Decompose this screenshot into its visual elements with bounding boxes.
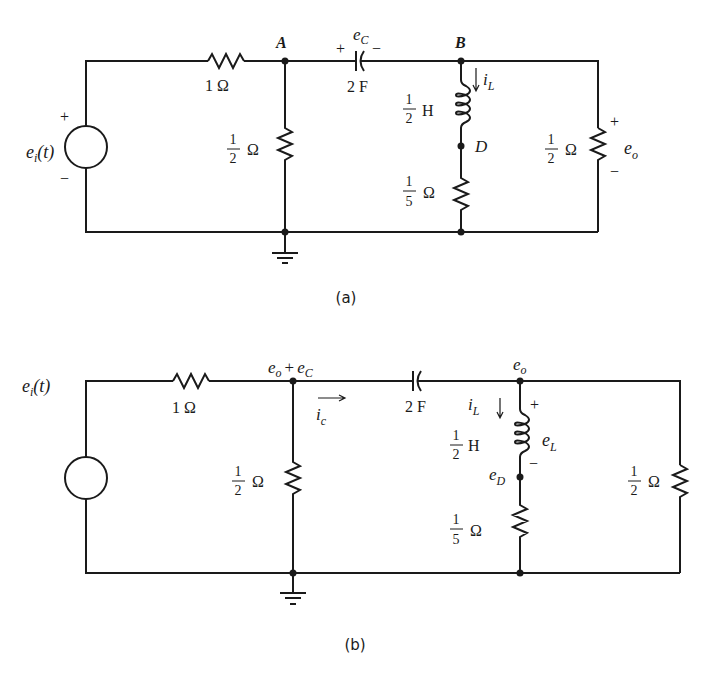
node-eo-dot-b (517, 378, 524, 385)
wire-a-left-top (86, 61, 208, 126)
cap-label-b: 2 F (405, 398, 426, 415)
wire-b-bottom (86, 499, 680, 573)
svg-text:1: 1 (406, 174, 413, 189)
resistor-half-ohm-right-b (673, 465, 687, 573)
svg-text:1: 1 (230, 132, 237, 147)
node-a-dot (282, 58, 289, 65)
svg-text:Ω: Ω (247, 141, 259, 158)
node-ed-dot-b (517, 474, 524, 481)
svg-text:H: H (422, 102, 434, 119)
svg-text:1: 1 (453, 428, 460, 443)
node-b-label: B (454, 34, 466, 51)
el-plus-b: + (530, 396, 539, 413)
svg-text:5: 5 (406, 194, 413, 209)
inductor-label-a: 1 2 H (403, 92, 434, 126)
eo-minus-a: − (610, 163, 619, 180)
r4-label-a: 1 2 Ω (545, 132, 577, 166)
svg-text:5: 5 (453, 532, 460, 547)
r4-label-b: 1 2 Ω (628, 464, 660, 498)
source-label-b: ei(t) (22, 376, 50, 399)
svg-text:H: H (468, 437, 480, 454)
svg-text:Ω: Ω (648, 473, 660, 490)
voltage-source-a (65, 126, 107, 168)
svg-text:2: 2 (235, 483, 242, 498)
el-minus-b: − (529, 455, 538, 472)
source-plus-a: + (60, 108, 69, 125)
r1-label-b: 1 Ω (172, 399, 196, 416)
svg-text:Ω: Ω (470, 522, 482, 539)
circuit-diagrams: ei(t) + − 1 Ω A B D + − eC 2 F iL 1 2 Ω … (0, 0, 722, 678)
r1-label-a: 1 Ω (205, 77, 229, 94)
node1-label-b: eo+eC (268, 358, 314, 380)
source-label-a: ei(t) (26, 142, 54, 165)
svg-text:2: 2 (453, 447, 460, 462)
resistor-half-ohm-right-a (591, 128, 605, 232)
cap-plus-a: + (336, 40, 345, 57)
cap-minus-a: − (372, 40, 381, 57)
svg-text:2: 2 (230, 151, 237, 166)
caption-a: (a) (336, 289, 357, 307)
node2-label-b: eo (513, 355, 527, 377)
svg-text:Ω: Ω (423, 184, 435, 201)
wire-a-top-right (361, 61, 598, 128)
il-arrow-a (473, 68, 479, 91)
ground-icon-b (280, 573, 306, 604)
svg-text:Ω: Ω (252, 473, 264, 490)
svg-text:2: 2 (406, 111, 413, 126)
node-d-dot (458, 143, 465, 150)
resistor-1ohm-b (173, 374, 209, 388)
svg-text:1: 1 (631, 464, 638, 479)
r3-label-a: 1 5 Ω (403, 174, 435, 209)
node-a-label: A (275, 34, 287, 51)
cap-voltage-a: eC (353, 25, 370, 47)
svg-text:2: 2 (548, 151, 555, 166)
r2-label-a: 1 2 Ω (227, 132, 259, 166)
el-label-b: eL (542, 430, 557, 454)
ground-icon-a (272, 232, 298, 263)
il-label-b: iL (468, 395, 480, 418)
bottom-node-b2-dot (517, 570, 524, 577)
svg-text:Ω: Ω (565, 141, 577, 158)
wire-a-branch-a (278, 61, 292, 232)
bottom-node-b-dot (458, 229, 465, 236)
caption-b: (b) (344, 636, 365, 654)
voltage-source-b (65, 457, 107, 499)
node1-dot-b (290, 378, 297, 385)
il-label-a: iL (483, 70, 495, 93)
ic-label-b: ic (316, 405, 327, 428)
figure-a: ei(t) + − 1 Ω A B D + − eC 2 F iL 1 2 Ω … (26, 25, 638, 307)
svg-text:2: 2 (631, 483, 638, 498)
node-d-label: D (474, 137, 488, 156)
cap-label-a: 2 F (347, 78, 368, 95)
wire-a-bottom (86, 168, 598, 232)
source-minus-a: − (60, 170, 69, 187)
figure-b: ei(t) 1 Ω eo+eC ic 2 F eo iL + − eL eD 1… (22, 355, 687, 654)
eo-label-a: eo (624, 138, 638, 162)
node-b-dot (458, 58, 465, 65)
wire-b-branch-1 (286, 381, 300, 573)
svg-text:1: 1 (406, 92, 413, 107)
svg-text:1: 1 (235, 464, 242, 479)
inductor-label-b: 1 2 H (450, 428, 480, 462)
ed-label-b: eD (489, 465, 506, 488)
wire-b-left-top (86, 381, 173, 457)
resistor-1ohm-a (208, 54, 244, 68)
eo-plus-a: + (610, 113, 619, 130)
r3-label-b: 1 5 Ω (450, 512, 482, 547)
svg-text:1: 1 (548, 132, 555, 147)
il-arrow-b (497, 398, 503, 418)
ic-arrow-b (318, 395, 345, 401)
svg-text:1: 1 (453, 512, 460, 527)
r2-label-b: 1 2 Ω (232, 464, 264, 498)
